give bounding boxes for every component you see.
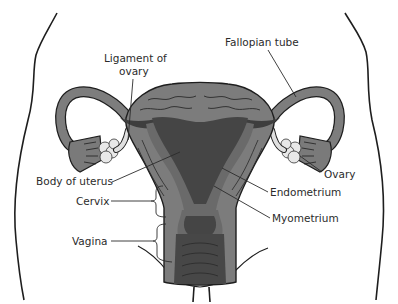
label-body-of-uterus: Body of uterus: [36, 175, 113, 187]
right-inner-leg: [209, 287, 210, 302]
vaginal-canal: [174, 234, 226, 284]
label-ovary: Ovary: [324, 168, 355, 180]
leader-fallopian-tube: [268, 50, 296, 97]
reproductive-anatomy-diagram: Ligament of ovary Fallopian tube Body of…: [0, 0, 398, 304]
left-inner-leg: [193, 287, 194, 302]
left-body-outline: [15, 13, 57, 300]
label-ligament-of-ovary-line2: ovary: [119, 65, 149, 77]
label-fallopian-tube: Fallopian tube: [225, 36, 299, 48]
label-vagina: Vagina: [72, 235, 107, 247]
right-body-outline: [345, 13, 384, 300]
label-endometrium: Endometrium: [270, 186, 341, 198]
label-cervix: Cervix: [76, 195, 109, 207]
label-myometrium: Myometrium: [272, 212, 339, 224]
left-fimbriae: [69, 136, 102, 172]
diagram-canvas: Ligament of ovary Fallopian tube Body of…: [0, 0, 398, 304]
label-ligament-of-ovary: Ligament of: [104, 52, 167, 64]
